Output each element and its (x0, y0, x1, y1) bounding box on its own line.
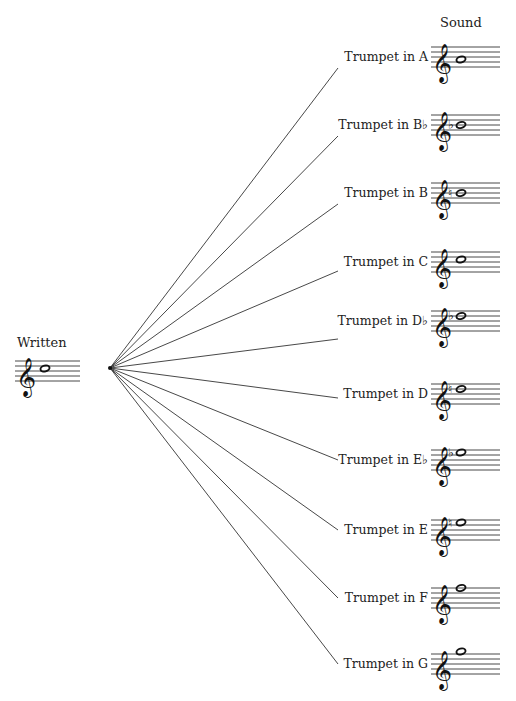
instrument-label: Trumpet in B (344, 185, 428, 200)
instrument-row: Trumpet in C𝄞 (344, 247, 500, 289)
instrument-list: Trumpet in A𝄞Trumpet in B♭𝄞♭Trumpet in B… (337, 42, 500, 691)
written-staff: 𝄞 (15, 356, 80, 398)
instrument-row: Trumpet in F𝄞 (345, 583, 500, 625)
instrument-label: Trumpet in F (345, 590, 429, 605)
sound-staff: 𝄞♮ (431, 178, 500, 220)
instrument-label: Trumpet in C (344, 254, 428, 269)
natural-sign-icon: ♮ (448, 186, 452, 200)
treble-clef-icon: 𝄞 (432, 649, 452, 691)
treble-clef-icon: 𝄞 (432, 247, 452, 289)
sound-staff: 𝄞 (431, 42, 500, 84)
ray-E♭ (110, 368, 338, 460)
instrument-label: Trumpet in D♭ (337, 313, 428, 328)
instrument-label: Trumpet in B♭ (338, 117, 428, 132)
sound-staff: 𝄞♭ (431, 110, 500, 152)
connector-rays (110, 68, 338, 664)
instrument-row: Trumpet in E♭𝄞♭ (338, 445, 500, 487)
natural-sign-icon: ♮ (448, 516, 452, 530)
instrument-label: Trumpet in E (344, 522, 428, 537)
sound-staff: 𝄞 (431, 247, 500, 289)
written-label: Written (17, 335, 67, 350)
instrument-row: Trumpet in A𝄞 (344, 42, 500, 84)
ray-F (110, 368, 338, 598)
instrument-row: Trumpet in B𝄞♮ (344, 178, 500, 220)
instrument-row: Trumpet in D𝄞♮ (343, 379, 500, 421)
instrument-label: Trumpet in A (344, 49, 429, 64)
sound-staff: 𝄞♮ (431, 515, 500, 557)
sound-staff: 𝄞♭ (431, 445, 500, 487)
ray-B♭ (110, 136, 338, 368)
flat-sign-icon: ♭ (448, 446, 454, 460)
instrument-row: Trumpet in G𝄞 (343, 648, 500, 691)
ray-E (110, 368, 338, 530)
ray-G (110, 368, 338, 664)
sound-staff: 𝄞♭ (431, 306, 500, 348)
ray-A (110, 68, 338, 368)
instrument-label: Trumpet in G (343, 656, 428, 671)
flat-sign-icon: ♭ (448, 118, 454, 132)
instrument-row: Trumpet in E𝄞♮ (344, 515, 500, 557)
instrument-row: Trumpet in D♭𝄞♭ (337, 306, 500, 348)
written-block: Written 𝄞 (15, 335, 80, 398)
treble-clef-icon: 𝄞 (16, 356, 36, 398)
ray-D (110, 368, 338, 398)
transposition-diagram: Written 𝄞 Sound Trumpet in A𝄞Trumpet in … (0, 0, 516, 701)
treble-clef-icon: 𝄞 (432, 42, 452, 84)
natural-sign-icon: ♮ (448, 382, 452, 396)
sound-staff: 𝄞 (431, 648, 500, 691)
sound-heading: Sound (440, 15, 482, 30)
instrument-label: Trumpet in D (343, 386, 428, 401)
treble-clef-icon: 𝄞 (432, 583, 452, 625)
sound-staff: 𝄞♮ (431, 379, 500, 421)
flat-sign-icon: ♭ (448, 309, 454, 323)
sound-staff: 𝄞 (431, 583, 500, 625)
hub-point (108, 366, 112, 370)
instrument-label: Trumpet in E♭ (338, 452, 428, 467)
instrument-row: Trumpet in B♭𝄞♭ (338, 110, 500, 152)
